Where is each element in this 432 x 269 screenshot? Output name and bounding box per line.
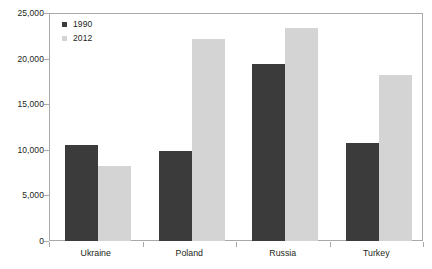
y-axis: 25,000 20,000 15,000 10,000 5,000 0: [0, 0, 44, 269]
bar-group-ukraine: [49, 13, 143, 241]
bar-ukraine-1990: [65, 145, 98, 241]
legend-entry-2012: 2012: [62, 33, 142, 44]
x-tick-mark: [423, 242, 424, 247]
y-tick-label: 5,000: [0, 191, 44, 200]
square-light-swatch-icon: [62, 36, 67, 41]
legend-label: 1990: [73, 20, 92, 29]
bar-poland-1990: [159, 151, 192, 241]
x-tick-label-turkey: Turkey: [330, 247, 424, 263]
bars-layer: [49, 13, 423, 241]
y-tick-label: 25,000: [0, 9, 44, 18]
bar-group-turkey: [330, 13, 424, 241]
x-tick-label-ukraine: Ukraine: [49, 247, 143, 263]
bar-poland-2012: [192, 39, 225, 242]
y-tick-label: 15,000: [0, 100, 44, 109]
legend-entry-1990: 1990: [62, 19, 142, 30]
bar-turkey-1990: [346, 143, 379, 242]
legend: 1990 2012: [62, 19, 142, 47]
bar-chart: 25,000 20,000 15,000 10,000 5,000 0: [0, 0, 432, 269]
bar-group-poland: [143, 13, 237, 241]
square-dark-swatch-icon: [62, 22, 67, 27]
x-tick-label-russia: Russia: [236, 247, 330, 263]
bar-group-russia: [236, 13, 330, 241]
y-tick-label: 0: [0, 237, 44, 246]
bar-russia-1990: [252, 64, 285, 241]
legend-label: 2012: [73, 34, 92, 43]
bar-turkey-2012: [379, 75, 412, 241]
bar-ukraine-2012: [98, 166, 131, 241]
y-tick-label: 10,000: [0, 146, 44, 155]
bar-russia-2012: [285, 28, 318, 241]
x-tick-label-poland: Poland: [143, 247, 237, 263]
y-tick-label: 20,000: [0, 55, 44, 64]
x-axis: Ukraine Poland Russia Turkey: [49, 247, 423, 263]
